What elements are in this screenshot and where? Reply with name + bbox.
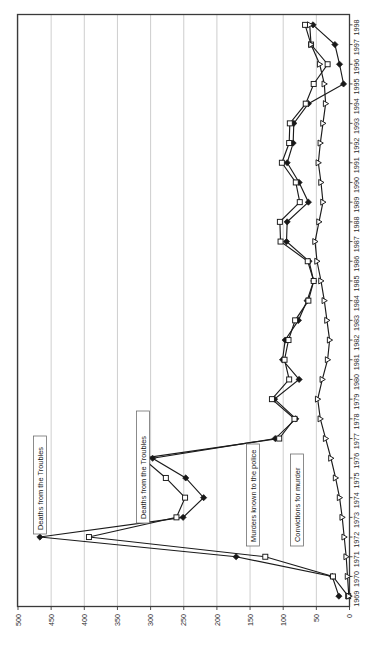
category-tick-label: 1983 — [352, 315, 361, 331]
rotated-line-chart: 050100150200250300350400450500 196919701… — [0, 0, 374, 659]
category-tick-label: 1972 — [352, 532, 361, 548]
value-tick-label: 100 — [279, 614, 288, 626]
category-tick-label: 1993 — [352, 118, 361, 134]
value-tick-label: 250 — [179, 614, 188, 626]
data-point-square — [330, 574, 335, 579]
value-tick-label: 50 — [312, 614, 321, 622]
category-tick-label: 1990 — [352, 177, 361, 193]
category-tick-label: 1996 — [352, 59, 361, 75]
data-point-square — [311, 278, 316, 283]
data-point-square — [174, 515, 179, 520]
value-tick-label: 450 — [47, 614, 56, 626]
data-point-square — [183, 495, 188, 500]
category-tick-label: 1980 — [352, 374, 361, 390]
value-tick-label: 0 — [345, 614, 354, 618]
category-tick-label: 1994 — [352, 98, 361, 114]
annotation-label: Deaths from the Troubles — [139, 436, 148, 519]
annotation-convictions: Convictions for murder — [291, 454, 304, 546]
data-point-square — [86, 535, 91, 540]
annotation-label: Convictions for murder — [293, 467, 302, 542]
data-point-square — [303, 22, 308, 27]
data-point-square — [287, 121, 292, 126]
category-tick-label: 1971 — [352, 551, 361, 567]
chart-container: 050100150200250300350400450500 196919701… — [0, 0, 374, 659]
data-point-square — [293, 180, 298, 185]
data-point-square — [303, 101, 308, 106]
category-tick-label: 1974 — [352, 492, 361, 508]
category-tick-label: 1991 — [352, 157, 361, 173]
data-point-square — [263, 554, 268, 559]
data-point-square — [311, 81, 316, 86]
category-tick-label: 1998 — [352, 19, 361, 35]
value-tick-label: 150 — [246, 614, 255, 626]
annotation-label: Murders known to the police — [249, 450, 258, 542]
data-point-square — [293, 318, 298, 323]
data-point-square — [325, 62, 330, 67]
category-tick-label: 1977 — [352, 433, 361, 449]
data-point-square — [305, 259, 310, 264]
category-tick-label: 1979 — [352, 394, 361, 410]
category-tick-label: 1997 — [352, 39, 361, 55]
category-tick-label: 1987 — [352, 236, 361, 252]
category-tick-label: 1978 — [352, 413, 361, 429]
category-tick-label: 1984 — [352, 295, 361, 311]
data-point-square — [297, 200, 302, 205]
category-tick-label: 1985 — [352, 276, 361, 292]
annotation-murders: Murders known to the police — [247, 444, 260, 546]
value-tick-label: 350 — [113, 614, 122, 626]
data-point-square — [306, 298, 311, 303]
data-point-square — [277, 219, 282, 224]
category-tick-label: 1973 — [352, 512, 361, 528]
data-point-square — [282, 357, 287, 362]
category-tick-label: 1970 — [352, 571, 361, 587]
data-point-square — [292, 416, 297, 421]
category-tick-label: 1992 — [352, 138, 361, 154]
data-point-square — [279, 160, 284, 165]
data-point-square — [287, 141, 292, 146]
value-tick-label: 400 — [80, 614, 89, 626]
data-point-square — [287, 377, 292, 382]
data-point-square — [278, 239, 283, 244]
category-tick-label: 1969 — [352, 591, 361, 607]
annotation-deaths-1: Deaths from the Troubles — [34, 436, 47, 534]
data-point-square — [277, 436, 282, 441]
category-tick-label: 1981 — [352, 354, 361, 370]
category-tick-label: 1988 — [352, 216, 361, 232]
category-tick-label: 1995 — [352, 79, 361, 95]
annotation-label: Deaths from the Troubles — [36, 447, 45, 530]
data-point-square — [286, 338, 291, 343]
category-tick-label: 1986 — [352, 256, 361, 272]
data-point-square — [163, 475, 168, 480]
category-tick-label: 1982 — [352, 335, 361, 351]
value-tick-label: 200 — [213, 614, 222, 626]
category-tick-label: 1976 — [352, 453, 361, 469]
data-point-square — [269, 397, 274, 402]
category-tick-label: 1975 — [352, 473, 361, 489]
value-tick-label: 300 — [146, 614, 155, 626]
value-tick-label: 500 — [14, 614, 23, 626]
category-tick-label: 1989 — [352, 197, 361, 213]
annotation-deaths-2: Deaths from the Troubles — [137, 411, 150, 523]
